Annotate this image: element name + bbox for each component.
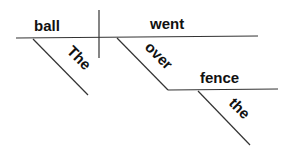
object-baseline — [168, 89, 278, 90]
object-word: fence — [200, 69, 239, 86]
object-modifier-word: the — [226, 94, 254, 122]
sentence-diagram: ball went The over fence the — [0, 0, 292, 152]
subject-modifier-word: The — [64, 42, 95, 73]
main-baseline — [16, 36, 258, 38]
subject-word: ball — [34, 17, 60, 34]
preposition-word: over — [142, 38, 177, 73]
verb-word: went — [149, 15, 184, 32]
